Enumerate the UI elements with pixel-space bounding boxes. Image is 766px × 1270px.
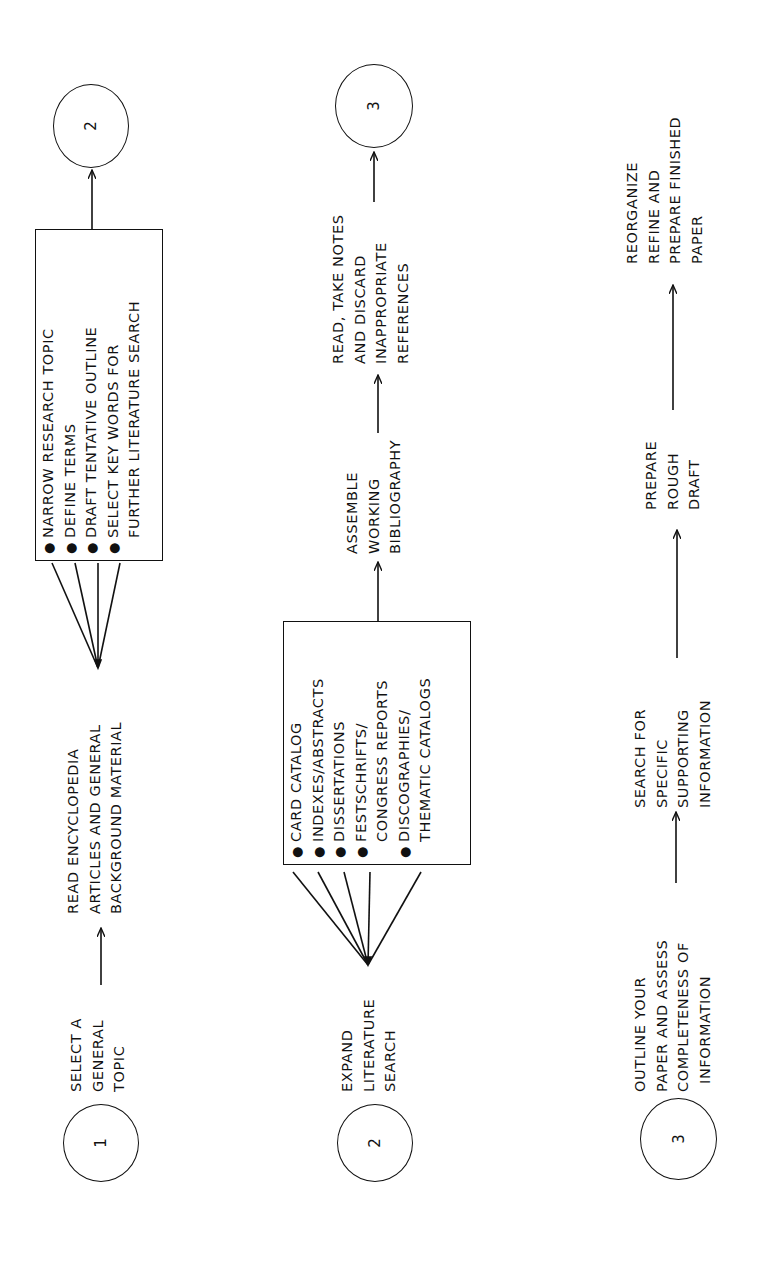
step-rough-draft: PREPARE ROUGH DRAFT bbox=[641, 441, 706, 510]
fan-line bbox=[368, 872, 421, 965]
box-item-text: CARD CATALOG bbox=[286, 722, 308, 842]
text-line: SUPPORTING bbox=[673, 700, 695, 808]
text-line: PREPARE bbox=[641, 441, 663, 510]
bullet-icon: ● bbox=[60, 538, 82, 554]
text-line: PREPARE FINISHED bbox=[665, 117, 687, 264]
fan-line bbox=[52, 563, 98, 668]
box-item: THEMATIC CATALOGS bbox=[415, 628, 437, 858]
text-line: REFINE AND bbox=[644, 117, 666, 264]
text-line: BACKGROUND MATERIAL bbox=[106, 722, 128, 914]
box-item: ●SELECT KEY WORDS FOR bbox=[103, 236, 125, 554]
text-line: READ, TAKE NOTES bbox=[328, 214, 350, 364]
text-line: GENERAL bbox=[88, 1018, 110, 1092]
node-number: 3 bbox=[365, 101, 383, 111]
text-line: ASSEMBLE bbox=[342, 440, 364, 554]
text-line: PAPER bbox=[687, 117, 709, 264]
text-line: LITERATURE bbox=[359, 999, 381, 1092]
text-line: EXPAND bbox=[337, 999, 359, 1092]
box-item: FURTHER LITERATURE SEARCH bbox=[124, 236, 146, 554]
box-item: ●FESTSCHRIFTS/ bbox=[351, 628, 373, 858]
box-item-text: DISSERTATIONS bbox=[329, 721, 351, 842]
bullet-icon: ● bbox=[351, 842, 373, 858]
node-number: 2 bbox=[366, 1138, 384, 1148]
fan-line bbox=[98, 563, 120, 668]
text-line: SPECIFIC bbox=[652, 700, 674, 808]
text-line: COMPLETENESS OF bbox=[673, 940, 695, 1092]
box-item: ●DRAFT TENTATIVE OUTLINE bbox=[81, 236, 103, 554]
text-line: WORKING bbox=[364, 440, 386, 554]
bullet-icon: ● bbox=[103, 538, 125, 554]
step-read-background: READ ENCYCLOPEDIA ARTICLES AND GENERAL B… bbox=[63, 722, 128, 914]
node-number: 1 bbox=[92, 1138, 110, 1148]
node-number: 2 bbox=[82, 121, 100, 131]
box-item-text: DISCOGRAPHIES/ bbox=[394, 710, 416, 842]
step-outline-paper: OUTLINE YOUR PAPER AND ASSESS COMPLETENE… bbox=[630, 940, 716, 1092]
text-line: TOPIC bbox=[109, 1018, 131, 1092]
step-select-topic: SELECT A GENERAL TOPIC bbox=[66, 1018, 131, 1092]
bullet-icon bbox=[415, 842, 437, 858]
box-item: ●DISCOGRAPHIES/ bbox=[394, 628, 416, 858]
text-line: AND DISCARD bbox=[350, 214, 372, 364]
box-item-text: CONGRESS REPORTS bbox=[372, 680, 394, 842]
text-line: PAPER AND ASSESS bbox=[652, 940, 674, 1092]
step-node-1: 1 bbox=[63, 1104, 139, 1182]
step-node-2: 2 bbox=[337, 1104, 413, 1182]
text-line: DRAFT bbox=[684, 441, 706, 510]
box-item: ●NARROW RESEARCH TOPIC bbox=[38, 236, 60, 554]
text-line: BIBLIOGRAPHY bbox=[385, 440, 407, 554]
text-line: INFORMATION bbox=[695, 940, 717, 1092]
bullet-icon: ● bbox=[394, 842, 416, 858]
bullet-icon: ● bbox=[81, 538, 103, 554]
box-item-text: SELECT KEY WORDS FOR bbox=[103, 344, 125, 538]
bullet-icon bbox=[124, 538, 146, 554]
box-item-text: DRAFT TENTATIVE OUTLINE bbox=[81, 327, 103, 538]
text-line: INAPPROPRIATE bbox=[371, 214, 393, 364]
step-expand-search: EXPAND LITERATURE SEARCH bbox=[337, 999, 402, 1092]
text-line: SELECT A bbox=[66, 1018, 88, 1092]
box-item: ●CARD CATALOG bbox=[286, 628, 308, 858]
text-line: ARTICLES AND GENERAL bbox=[85, 722, 107, 914]
bullet-icon: ● bbox=[308, 842, 330, 858]
box-item-text: FESTSCHRIFTS/ bbox=[351, 723, 373, 842]
bullet-icon: ● bbox=[329, 842, 351, 858]
fan-apex-marker bbox=[95, 660, 101, 668]
step-node-2-end: 2 bbox=[53, 84, 129, 168]
source-box-literature: ●CARD CATALOG ●INDEXES/ABSTRACTS ●DISSER… bbox=[283, 621, 471, 865]
step-finish-paper: REORGANIZE REFINE AND PREPARE FINISHED P… bbox=[622, 117, 708, 264]
box-item: ●DISSERTATIONS bbox=[329, 628, 351, 858]
text-line: READ ENCYCLOPEDIA bbox=[63, 722, 85, 914]
box-item-text: DEFINE TERMS bbox=[60, 423, 82, 538]
text-line: SEARCH FOR bbox=[630, 700, 652, 808]
step-assemble-bibliography: ASSEMBLE WORKING BIBLIOGRAPHY bbox=[342, 440, 407, 554]
fan-line bbox=[75, 563, 98, 668]
bullet-icon bbox=[372, 842, 394, 858]
box-item: CONGRESS REPORTS bbox=[372, 628, 394, 858]
box-item: ●INDEXES/ABSTRACTS bbox=[308, 628, 330, 858]
text-line: ROUGH bbox=[663, 441, 685, 510]
step-node-3: 3 bbox=[640, 1098, 717, 1180]
fan-line bbox=[318, 872, 368, 965]
text-line: OUTLINE YOUR bbox=[630, 940, 652, 1092]
box-item-text: INDEXES/ABSTRACTS bbox=[308, 678, 330, 842]
text-line: SEARCH bbox=[380, 999, 402, 1092]
fan-line bbox=[368, 872, 370, 965]
box-item: ●DEFINE TERMS bbox=[60, 236, 82, 554]
box-item-text: NARROW RESEARCH TOPIC bbox=[38, 328, 60, 538]
bullet-icon: ● bbox=[286, 842, 308, 858]
research-process-flowchart: 1 SELECT A GENERAL TOPIC READ ENCYCLOPED… bbox=[0, 0, 766, 1270]
step-read-take-notes: READ, TAKE NOTES AND DISCARD INAPPROPRIA… bbox=[328, 214, 414, 364]
bullet-icon: ● bbox=[38, 538, 60, 554]
text-line: INFORMATION bbox=[695, 700, 717, 808]
task-box-narrow-topic: ●NARROW RESEARCH TOPIC ●DEFINE TERMS ●DR… bbox=[35, 229, 163, 561]
text-line: REFERENCES bbox=[393, 214, 415, 364]
node-number: 3 bbox=[670, 1134, 688, 1144]
box-item-text: FURTHER LITERATURE SEARCH bbox=[124, 301, 146, 538]
box-item-text: THEMATIC CATALOGS bbox=[415, 678, 437, 842]
step-node-3-end: 3 bbox=[335, 64, 413, 148]
text-line: REORGANIZE bbox=[622, 117, 644, 264]
fan-apex-marker bbox=[365, 957, 371, 965]
step-search-supporting: SEARCH FOR SPECIFIC SUPPORTING INFORMATI… bbox=[630, 700, 716, 808]
